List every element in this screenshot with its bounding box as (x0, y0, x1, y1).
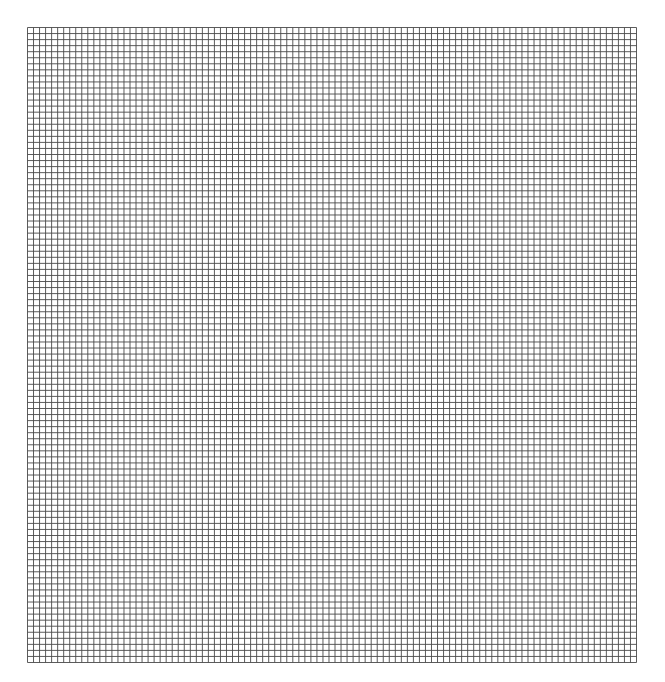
grid-paper (27, 27, 637, 663)
grid-lines (27, 27, 637, 663)
grid-line-path (28, 28, 637, 663)
